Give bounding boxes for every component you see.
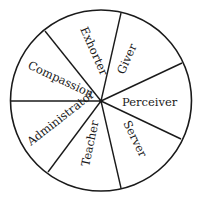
segment-label-perceiver: Perceiver <box>122 95 178 109</box>
wheel-hub <box>99 99 103 103</box>
gifts-wheel-diagram: Exhorter Giver Perceiver Server Teacher … <box>0 0 203 202</box>
